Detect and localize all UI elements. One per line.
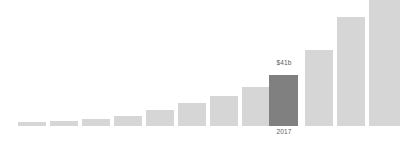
- bar-6[interactable]: [178, 103, 206, 126]
- highlight-value-label: $41b: [264, 59, 304, 67]
- bar-9-highlighted-2017[interactable]: [269, 75, 298, 126]
- bar-7[interactable]: [210, 96, 238, 126]
- bar-10[interactable]: [305, 50, 333, 126]
- bar-5[interactable]: [146, 110, 174, 126]
- bar-3[interactable]: [82, 119, 110, 126]
- bar-8[interactable]: [242, 87, 270, 126]
- bar-1[interactable]: [18, 122, 46, 126]
- bar-2[interactable]: [50, 121, 78, 126]
- bar-chart: $41b 2017: [0, 0, 413, 144]
- bar-12[interactable]: [369, 0, 400, 126]
- bar-4[interactable]: [114, 116, 142, 126]
- highlight-category-label: 2017: [264, 128, 304, 136]
- bar-11[interactable]: [337, 17, 365, 126]
- chart-plot-area: $41b 2017: [0, 0, 413, 144]
